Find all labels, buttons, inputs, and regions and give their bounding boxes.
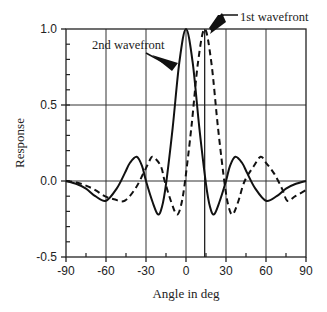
y-tick-label: -0.5	[36, 250, 57, 264]
response-chart: -90-60-300306090-0.50.00.51.0 Angle in d…	[0, 0, 327, 312]
x-tick-label: 90	[299, 264, 313, 278]
x-tick-label: 60	[259, 264, 273, 278]
x-tick-label: -90	[57, 264, 75, 278]
axis-ticks: -90-60-300306090-0.50.00.51.0	[36, 22, 313, 278]
annotation-1st-wavefront: 1st wavefront	[240, 10, 309, 24]
grid-lines	[66, 29, 306, 257]
y-tick-label: 0.5	[40, 98, 57, 112]
y-axis-label: Response	[12, 118, 27, 168]
x-tick-label: -30	[137, 264, 155, 278]
y-tick-label: 1.0	[40, 22, 57, 36]
x-tick-label: -60	[97, 264, 115, 278]
x-axis-label: Angle in deg	[152, 286, 220, 301]
annotation-2nd-wavefront: 2nd wavefront	[92, 38, 165, 52]
y-tick-label: 0.0	[40, 174, 57, 188]
x-tick-label: 0	[183, 264, 190, 278]
x-tick-label: 30	[219, 264, 233, 278]
